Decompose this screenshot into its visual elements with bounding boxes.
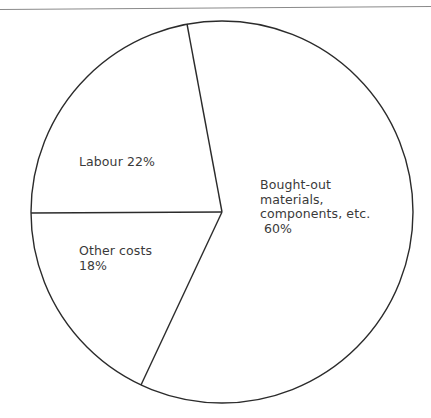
pie-label-other-costs: Other costs 18% [79,244,152,273]
pie-label-other-costs-value: 18% [79,259,152,274]
pie-label-labour-line-1: Labour 22% [79,155,155,170]
pie-label-bought-out-line-3: components, etc. [260,207,370,222]
pie-label-bought-out-line-1: Bought-out [260,178,370,193]
pie-label-bought-out-line-2: materials, [260,193,370,208]
pie-chart-page: Labour 22% Bought-out materials, compone… [0,0,431,418]
page-top-rule [0,7,431,10]
pie-label-bought-out-value: 60% [260,222,370,237]
pie-label-bought-out: Bought-out materials, components, etc. 6… [260,178,370,236]
pie-label-other-costs-line-1: Other costs [79,244,152,259]
pie-label-labour: Labour 22% [79,155,155,170]
